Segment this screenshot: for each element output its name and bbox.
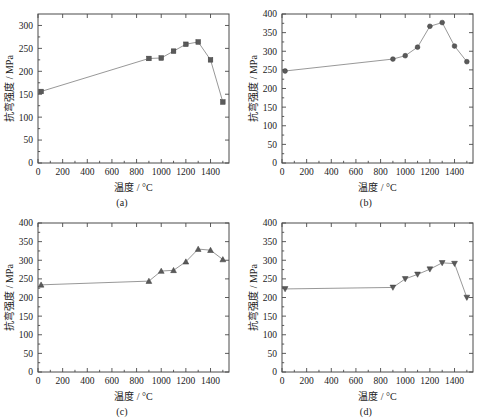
- x-tick-label: 1000: [396, 376, 415, 386]
- y-tick-label: 200: [19, 293, 34, 303]
- plot-frame: [38, 223, 229, 372]
- y-tick-label: 400: [263, 9, 278, 19]
- data-point-marker: [184, 42, 189, 47]
- y-tick-label: 400: [19, 218, 34, 228]
- data-series-line: [285, 23, 467, 71]
- y-tick-label: 0: [28, 158, 33, 168]
- panel-caption-c: (c): [0, 406, 244, 417]
- x-tick-label: 1400: [201, 167, 220, 177]
- x-tick-label: 1200: [420, 376, 439, 386]
- y-tick-label: 0: [272, 367, 277, 377]
- data-point-marker: [440, 20, 445, 25]
- chart-panel-d: 0200400600800100012001400050100150200250…: [244, 209, 488, 418]
- x-tick-label: 200: [300, 376, 315, 386]
- y-tick-label: 100: [19, 113, 34, 123]
- y-tick-label: 50: [24, 349, 34, 359]
- x-tick-label: 1200: [176, 376, 195, 386]
- y-tick-label: 300: [263, 47, 278, 57]
- x-tick-label: 1200: [420, 167, 439, 177]
- data-point-marker: [464, 59, 469, 64]
- x-tick-label: 800: [373, 167, 388, 177]
- data-point-marker: [147, 56, 152, 61]
- data-point-marker: [464, 295, 470, 300]
- x-axis-title: 温度 / °C: [358, 390, 397, 402]
- data-point-marker: [415, 45, 420, 50]
- y-tick-label: 350: [263, 237, 278, 247]
- data-point-marker: [402, 277, 408, 282]
- y-tick-label: 250: [19, 44, 34, 54]
- chart-panel-c: 0200400600800100012001400050100150200250…: [0, 209, 244, 418]
- panel-caption-d: (d): [244, 406, 488, 417]
- x-tick-label: 0: [280, 376, 285, 386]
- data-point-marker: [159, 56, 164, 61]
- x-tick-label: 400: [80, 376, 95, 386]
- x-tick-label: 0: [36, 167, 41, 177]
- x-tick-label: 0: [36, 376, 41, 386]
- y-tick-label: 150: [263, 103, 278, 113]
- x-tick-label: 1000: [152, 167, 171, 177]
- x-tick-label: 1000: [396, 167, 415, 177]
- chart-panel-b: 0200400600800100012001400050100150200250…: [244, 0, 488, 209]
- x-tick-label: 1400: [201, 376, 220, 386]
- data-series-line: [41, 42, 223, 102]
- plot-d: 0200400600800100012001400050100150200250…: [244, 209, 488, 418]
- panel-caption-a: (a): [0, 197, 244, 208]
- x-tick-label: 600: [349, 376, 364, 386]
- y-tick-label: 300: [263, 256, 278, 266]
- x-tick-label: 600: [105, 167, 120, 177]
- data-point-marker: [39, 89, 44, 94]
- data-point-marker: [195, 246, 201, 251]
- y-tick-label: 250: [263, 274, 278, 284]
- plot-frame: [282, 14, 473, 163]
- y-tick-label: 50: [268, 349, 278, 359]
- x-tick-label: 1400: [445, 167, 464, 177]
- x-tick-label: 200: [300, 167, 315, 177]
- x-tick-label: 200: [56, 167, 71, 177]
- x-tick-label: 1000: [152, 376, 171, 386]
- y-axis-title: 抗弯强度 / MPa: [3, 55, 15, 122]
- y-tick-label: 50: [24, 135, 34, 145]
- y-tick-label: 300: [19, 256, 34, 266]
- y-axis-title: 抗弯强度 / MPa: [3, 264, 15, 331]
- y-tick-label: 400: [263, 218, 278, 228]
- y-tick-label: 200: [263, 84, 278, 94]
- x-tick-label: 800: [373, 376, 388, 386]
- x-tick-label: 0: [280, 167, 285, 177]
- data-point-marker: [221, 100, 226, 105]
- figure-container: 0200400600800100012001400050100150200250…: [0, 0, 488, 418]
- data-point-marker: [171, 49, 176, 54]
- plot-c: 0200400600800100012001400050100150200250…: [0, 209, 244, 418]
- x-tick-label: 400: [80, 167, 95, 177]
- y-tick-label: 150: [19, 90, 34, 100]
- x-axis-title: 温度 / °C: [114, 181, 153, 193]
- x-tick-label: 800: [129, 167, 144, 177]
- y-tick-label: 250: [263, 65, 278, 75]
- y-tick-label: 200: [263, 293, 278, 303]
- y-tick-label: 100: [263, 330, 278, 340]
- data-series-line: [285, 263, 467, 298]
- y-tick-label: 100: [19, 330, 34, 340]
- data-point-marker: [452, 44, 457, 49]
- data-series-line: [41, 249, 223, 285]
- x-tick-label: 200: [56, 376, 71, 386]
- data-point-marker: [403, 53, 408, 58]
- data-point-marker: [196, 40, 201, 45]
- y-tick-label: 0: [272, 158, 277, 168]
- plot-frame: [38, 14, 229, 163]
- y-tick-label: 0: [28, 367, 33, 377]
- x-tick-label: 400: [324, 167, 339, 177]
- y-tick-label: 250: [19, 274, 34, 284]
- panel-caption-b: (b): [244, 197, 488, 208]
- plot-b: 0200400600800100012001400050100150200250…: [244, 0, 488, 209]
- x-tick-label: 600: [349, 167, 364, 177]
- x-axis-title: 温度 / °C: [114, 390, 153, 402]
- x-tick-label: 800: [129, 376, 144, 386]
- y-tick-label: 50: [268, 140, 278, 150]
- data-point-marker: [208, 58, 213, 63]
- x-tick-label: 600: [105, 376, 120, 386]
- x-tick-label: 1200: [176, 167, 195, 177]
- y-tick-label: 200: [19, 67, 34, 77]
- plot-a: 0200400600800100012001400050100150200250…: [0, 0, 244, 209]
- y-axis-title: 抗弯强度 / MPa: [247, 264, 259, 331]
- y-tick-label: 100: [263, 121, 278, 131]
